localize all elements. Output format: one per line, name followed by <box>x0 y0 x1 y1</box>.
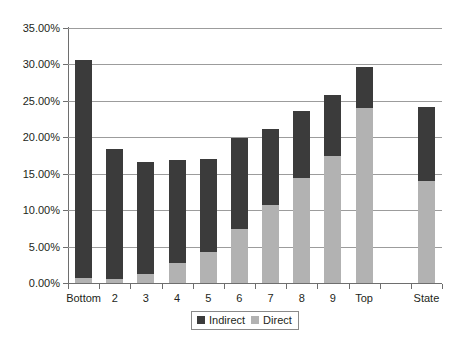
bar-segment-indirect <box>262 129 279 206</box>
y-axis-tick-label: 15.00% <box>0 169 60 180</box>
bar-segment-indirect <box>418 107 435 181</box>
x-axis-tick-mark <box>380 284 381 289</box>
x-axis-tick-mark <box>317 284 318 289</box>
y-axis-tick-label: 30.00% <box>0 59 60 70</box>
x-axis-tick-mark <box>130 284 131 289</box>
bar-segment-direct <box>137 274 154 283</box>
bar-state <box>418 28 435 283</box>
y-axis-tick-label: 5.00% <box>0 242 60 253</box>
bar-segment-direct <box>75 278 92 283</box>
x-axis-tick-mark <box>286 284 287 289</box>
bar-2 <box>106 28 123 283</box>
bar-8 <box>293 28 310 283</box>
bar-segment-direct <box>106 279 123 283</box>
bar-segment-direct <box>169 263 186 283</box>
bar-segment-indirect <box>356 67 373 109</box>
bar-9 <box>324 28 341 283</box>
y-axis-tick-label: 35.00% <box>0 23 60 34</box>
bar-segment-direct <box>293 178 310 283</box>
gridline <box>68 64 442 65</box>
y-axis-tick-label: 10.00% <box>0 205 60 216</box>
bar-segment-indirect <box>324 95 341 155</box>
bar-segment-indirect <box>169 160 186 263</box>
bar-3 <box>137 28 154 283</box>
x-axis-tick-mark <box>162 284 163 289</box>
bar-bottom <box>75 28 92 283</box>
bar-segment-direct <box>356 108 373 283</box>
legend-entry-indirect: Indirect <box>197 314 245 326</box>
bar-segment-indirect <box>293 111 310 178</box>
legend-label-direct: Direct <box>263 314 292 326</box>
x-axis-tick-mark <box>349 284 350 289</box>
x-axis-tick-mark <box>411 284 412 289</box>
x-axis-tick-mark <box>255 284 256 289</box>
x-axis-tick-mark <box>193 284 194 289</box>
y-axis-tick-label: 25.00% <box>0 96 60 107</box>
bar-segment-indirect <box>231 138 248 229</box>
bar-segment-direct <box>324 156 341 284</box>
bar-segment-direct <box>262 205 279 283</box>
bar-6 <box>231 28 248 283</box>
bar-top <box>356 28 373 283</box>
bar-4 <box>169 28 186 283</box>
bar-segment-indirect <box>200 159 217 252</box>
gridline <box>68 247 442 248</box>
gridline <box>68 28 442 29</box>
gridline <box>68 174 442 175</box>
x-axis-tick-mark <box>99 284 100 289</box>
bar-segment-direct <box>231 229 248 283</box>
bar-segment-indirect <box>137 162 154 274</box>
y-axis-tick-label: 20.00% <box>0 132 60 143</box>
legend-swatch-indirect-icon <box>197 316 205 324</box>
legend-entry-direct: Direct <box>251 314 292 326</box>
plot-area <box>68 28 442 283</box>
y-axis-tick-label: 0.00% <box>0 278 60 289</box>
stacked-bar-chart: 0.00%5.00%10.00%15.00%20.00%25.00%30.00%… <box>0 0 452 343</box>
legend-label-indirect: Indirect <box>209 314 245 326</box>
x-axis-tick-mark <box>442 284 443 289</box>
bar-7 <box>262 28 279 283</box>
x-axis-tick-mark <box>68 284 69 289</box>
gridline <box>68 101 442 102</box>
x-axis-tick-mark <box>224 284 225 289</box>
bar-segment-direct <box>418 181 435 283</box>
bar-segment-indirect <box>75 60 92 278</box>
x-axis-label-top: Top <box>334 292 394 304</box>
gridline <box>68 137 442 138</box>
bar-segment-direct <box>200 252 217 283</box>
bar-segment-indirect <box>106 149 123 279</box>
legend-swatch-direct-icon <box>251 316 259 324</box>
bar-5 <box>200 28 217 283</box>
x-axis-label-state: State <box>396 292 452 304</box>
gridline <box>68 210 442 211</box>
chart-legend: Indirect Direct <box>191 311 299 330</box>
